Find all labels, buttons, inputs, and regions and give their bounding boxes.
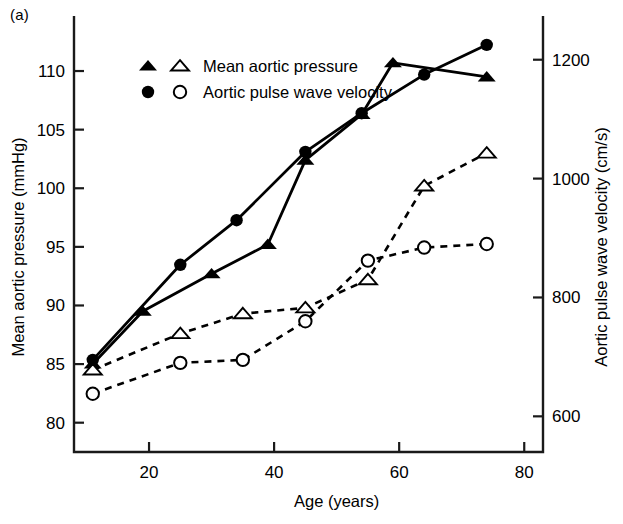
data-point-2-3 — [299, 146, 311, 158]
y-axis-tick-label: 85 — [46, 355, 65, 374]
data-point-0-3 — [259, 239, 277, 249]
data-point-3-4 — [362, 254, 374, 266]
legend-marker-open-0 — [171, 60, 189, 70]
data-point-3-5 — [418, 241, 430, 253]
axis-frame — [74, 16, 543, 452]
figure-panel: (a) 808590951001051106008001000120020406… — [0, 0, 623, 524]
data-point-1-2 — [234, 308, 252, 318]
y-axis-tick-label: 90 — [46, 296, 65, 315]
data-point-1-4 — [359, 274, 377, 284]
y2-axis-title: Aortic pulse wave velocity (cm/s) — [592, 127, 610, 366]
y-axis-tick-label: 105 — [37, 121, 65, 140]
data-point-2-5 — [418, 68, 430, 80]
data-point-2-2 — [230, 214, 242, 226]
data-point-1-3 — [296, 302, 314, 312]
data-point-2-6 — [481, 39, 493, 51]
chart-legend: Mean aortic pressureAortic pulse wave ve… — [139, 57, 393, 101]
data-point-2-0 — [87, 354, 99, 366]
y-axis-tick-label: 110 — [38, 62, 65, 81]
data-point-1-6 — [478, 147, 496, 157]
y-axis-tick-label: 100 — [37, 179, 65, 198]
chart-canvas: 808590951001051106008001000120020406080 … — [0, 0, 623, 524]
y-axis-tick-label: 80 — [46, 414, 65, 433]
y2-axis-tick-label: 800 — [552, 288, 580, 307]
x-axis-tick-label: 40 — [265, 463, 284, 482]
data-point-3-6 — [481, 238, 493, 250]
legend-marker-filled-0 — [139, 60, 157, 70]
data-point-0-6 — [384, 57, 402, 67]
x-axis-tick-label: 20 — [140, 463, 159, 482]
x-axis-tick-label: 80 — [515, 463, 534, 482]
x-axis-title: Age (years) — [294, 492, 379, 510]
series-line-3 — [93, 244, 487, 394]
legend-label-1: Aortic pulse wave velocity — [203, 83, 393, 101]
data-point-3-1 — [174, 357, 186, 369]
data-point-3-0 — [87, 388, 99, 400]
y-axis-title: Mean aortic pressure (mmHg) — [9, 137, 27, 356]
legend-label-0: Mean aortic pressure — [203, 57, 358, 75]
y2-axis-tick-label: 600 — [552, 407, 580, 426]
y2-axis-tick-label: 1000 — [552, 170, 590, 189]
data-point-2-1 — [174, 259, 186, 271]
series-line-0 — [93, 63, 487, 364]
data-point-2-4 — [355, 107, 367, 119]
x-axis-tick-label: 60 — [390, 463, 409, 482]
legend-marker-filled-1 — [142, 86, 154, 98]
data-point-3-2 — [237, 354, 249, 366]
legend-marker-open-1 — [174, 86, 186, 98]
y2-axis-tick-label: 1200 — [552, 51, 590, 70]
data-point-1-1 — [171, 328, 189, 338]
y-axis-tick-label: 95 — [46, 238, 65, 257]
data-point-3-3 — [299, 315, 311, 327]
